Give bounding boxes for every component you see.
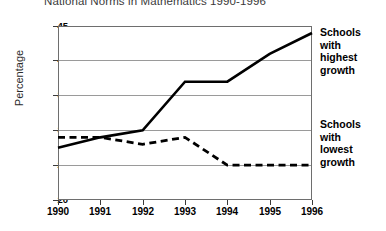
x-tick-label-1996: 1996 [290, 206, 334, 217]
x-tick-label-1992: 1992 [121, 206, 165, 217]
gridline-35 [59, 95, 311, 96]
x-tick-mark-1995 [270, 200, 271, 205]
x-tick-label-1994: 1994 [205, 206, 249, 217]
x-tick-mark-1994 [227, 200, 228, 205]
legend-note-high-line-1: Schools [320, 26, 386, 39]
x-tick-label-1990: 1990 [36, 206, 80, 217]
gridline-25 [59, 165, 311, 166]
y-axis-title: Percentage [13, 23, 25, 133]
legend-note-low-line-4: growth [320, 156, 386, 169]
x-tick-mark-1992 [143, 200, 144, 205]
x-tick-mark-1990 [58, 200, 59, 205]
legend-note-high-line-3: highest [320, 51, 386, 64]
x-tick-mark-1991 [100, 200, 101, 205]
plot-area [58, 26, 312, 200]
legend-note-high-line-2: with [320, 39, 386, 52]
legend-note-lowest-growth: Schools with lowest growth [320, 118, 386, 168]
legend-note-low-line-1: Schools [320, 118, 386, 131]
x-tick-mark-1993 [185, 200, 186, 205]
gridline-30 [59, 130, 311, 131]
x-tick-label-1993: 1993 [163, 206, 207, 217]
legend-note-low-line-3: lowest [320, 143, 386, 156]
legend-note-low-line-2: with [320, 131, 386, 144]
x-tick-mark-1996 [312, 200, 313, 205]
chart-title: National Norms in Mathematics 1990-1996 [0, 0, 310, 9]
legend-note-high-line-4: growth [320, 64, 386, 77]
x-tick-label-1995: 1995 [248, 206, 292, 217]
gridline-40 [59, 60, 311, 61]
x-tick-label-1991: 1991 [78, 206, 122, 217]
legend-note-highest-growth: Schools with highest growth [320, 26, 386, 76]
